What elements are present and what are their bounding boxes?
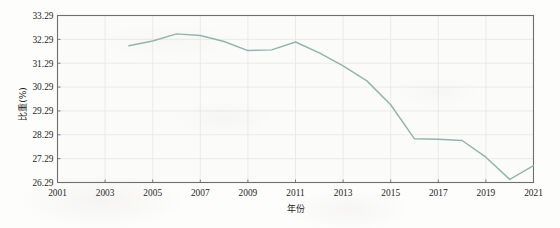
y-tick-label: 27.29 [32, 154, 53, 164]
y-axis-tick-labels: 26.2927.2928.2929.2930.2931.2932.2933.29 [32, 11, 60, 188]
x-tick-label: 2011 [286, 188, 305, 198]
y-tick-label: 32.29 [32, 35, 53, 45]
y-tick-label: 31.29 [32, 59, 53, 69]
chart-canvas: 26.2927.2928.2929.2930.2931.2932.2933.29… [0, 0, 560, 228]
y-tick-label: 26.29 [32, 178, 53, 188]
y-tick-label: 29.29 [32, 106, 53, 116]
x-axis-title: 年份 [287, 203, 305, 214]
x-tick-label: 2005 [143, 188, 162, 198]
x-tick-label: 2001 [48, 188, 67, 198]
x-tick-label: 2007 [191, 188, 210, 198]
x-tick-label: 2009 [239, 188, 258, 198]
x-tick-label: 2013 [334, 188, 353, 198]
y-tick-label: 33.29 [32, 11, 53, 21]
y-tick-label: 30.29 [32, 82, 53, 92]
x-tick-label: 2003 [96, 188, 115, 198]
line-chart: 26.2927.2928.2929.2930.2931.2932.2933.29… [0, 0, 560, 228]
x-tick-label: 2019 [477, 188, 496, 198]
y-tick-label: 28.29 [32, 130, 53, 140]
x-tick-label: 2017 [429, 188, 448, 198]
y-axis-title: 比重(%) [17, 87, 28, 121]
x-tick-label: 2021 [524, 188, 543, 198]
x-tick-label: 2015 [381, 188, 400, 198]
